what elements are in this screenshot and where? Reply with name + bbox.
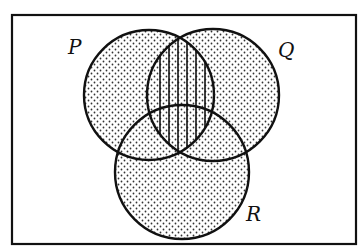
venn-diagram: P Q R [0, 0, 360, 252]
label-r: R [245, 202, 261, 226]
label-q: Q [278, 38, 294, 62]
label-p: P [67, 35, 82, 59]
